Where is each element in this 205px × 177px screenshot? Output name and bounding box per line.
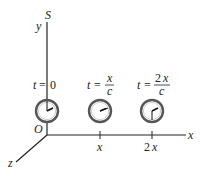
time-label-origin: t = 0 xyxy=(33,78,56,92)
fraction-numerator-var: x xyxy=(162,71,169,85)
origin-label: O xyxy=(34,122,43,136)
z-axis xyxy=(16,135,47,162)
time-label-2x: t = 2 x c xyxy=(137,71,170,98)
y-axis-label: y xyxy=(35,19,42,33)
x-axis-label: x xyxy=(187,128,194,142)
clock-origin xyxy=(36,100,58,122)
fraction-denominator: c xyxy=(159,84,165,98)
tick-label-2x-coef: 2 xyxy=(144,140,150,154)
clock-x xyxy=(89,100,111,122)
equals-sign: = xyxy=(94,78,101,92)
equals-sign: = xyxy=(39,78,46,92)
fraction-denominator: c xyxy=(107,84,113,98)
clock-2x xyxy=(141,100,163,122)
tick-label-x: x xyxy=(96,140,103,154)
equals-sign: = xyxy=(144,78,151,92)
fraction-numerator: x xyxy=(106,71,113,85)
time-var: t xyxy=(33,78,37,92)
time-var: t xyxy=(137,78,141,92)
fraction-numerator-coef: 2 xyxy=(155,71,161,85)
time-value: 0 xyxy=(50,78,56,92)
time-var: t xyxy=(87,78,91,92)
frame-label: S xyxy=(45,8,51,22)
z-axis-label: z xyxy=(7,156,13,170)
tick-label-2x-var: x xyxy=(151,140,158,154)
reference-frame-diagram: S y x z O x 2 x t = 0 t = x c xyxy=(0,0,205,177)
time-label-x: t = x c xyxy=(87,71,114,98)
